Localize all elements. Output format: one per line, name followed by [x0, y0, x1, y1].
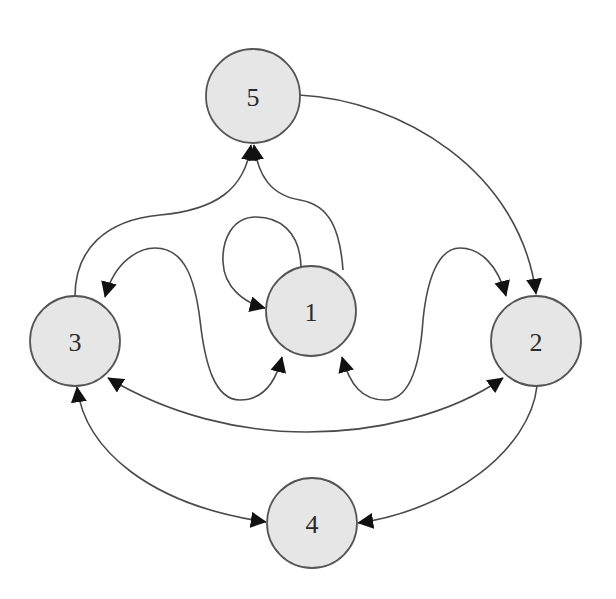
nodes: 5 1 3 2 4 [30, 49, 581, 568]
node-5-label: 5 [247, 83, 260, 112]
node-4-label: 4 [306, 510, 319, 539]
edge-5-to-2[interactable] [299, 95, 536, 294]
node-3-label: 3 [69, 328, 82, 357]
node-4[interactable]: 4 [267, 478, 357, 568]
node-1-label: 1 [305, 298, 318, 327]
edge-3-to-4-bidirectional[interactable] [77, 387, 266, 522]
edge-3-to-1-bidirectional[interactable] [105, 248, 282, 400]
edge-1-to-2-bidirectional[interactable] [342, 248, 506, 400]
node-2-label: 2 [530, 328, 543, 357]
node-3[interactable]: 3 [30, 296, 120, 386]
edge-3-to-2-bidirectional[interactable] [108, 378, 503, 432]
node-5[interactable]: 5 [206, 49, 300, 143]
directed-graph-diagram: 5 1 3 2 4 [0, 0, 616, 599]
node-2[interactable]: 2 [491, 296, 581, 386]
node-1[interactable]: 1 [266, 266, 356, 356]
